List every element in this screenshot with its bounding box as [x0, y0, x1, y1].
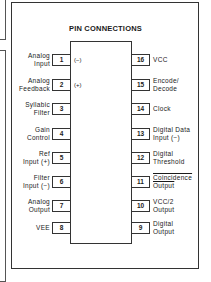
pin-7-label: AnalogOutput [28, 198, 50, 214]
adjacent-figure-border-bottom [0, 50, 6, 282]
pin-2-polarity: (+) [74, 82, 82, 88]
pin-4-label: GainControl [27, 126, 50, 142]
pin-14-label: Clock [153, 105, 171, 113]
pin-16-label: VCC [153, 56, 168, 64]
pin-10-label: VCC/2Output [153, 198, 174, 214]
pin-5-label: RefInput (+) [23, 150, 50, 166]
pin-2-label: AnalogFeedback [19, 77, 50, 93]
pin-3: 3 [52, 103, 70, 115]
pin-9-label: DigitalOutput [153, 220, 174, 236]
pin-15-label: Encode/Decode [153, 77, 179, 93]
pin-11: 11 [132, 176, 150, 188]
pin-1-label: AnalogInput [28, 52, 50, 68]
ic-package-body [70, 41, 132, 244]
pin-7: 7 [52, 200, 70, 212]
pin-6-label: FilterInput (−) [23, 174, 50, 190]
pin-13: 13 [132, 128, 150, 140]
pin-12-label: DigitalThreshold [153, 150, 185, 166]
pin-2: 2 [52, 79, 70, 91]
pin-14: 14 [132, 103, 150, 115]
pin-8: 8 [52, 222, 70, 234]
pin-15: 15 [132, 79, 150, 91]
pin-1: 1 [52, 54, 70, 66]
pin-13-label: Digital DataInput (−) [153, 126, 190, 142]
pin-3-label: SyllabicFilter [25, 101, 50, 117]
adjacent-figure-border-top [0, 0, 6, 40]
pin-16: 16 [132, 54, 150, 66]
pin-4: 4 [52, 128, 70, 140]
pin-11-label: CoincidenceOutput [153, 174, 192, 190]
pin-9: 9 [132, 222, 150, 234]
pin-6: 6 [52, 176, 70, 188]
pin-12: 12 [132, 152, 150, 164]
pin-8-label: VEE [36, 224, 50, 232]
diagram-title: PIN CONNECTIONS [0, 24, 211, 33]
pin-1-polarity: (−) [74, 57, 82, 63]
pin-5: 5 [52, 152, 70, 164]
pin-10: 10 [132, 200, 150, 212]
